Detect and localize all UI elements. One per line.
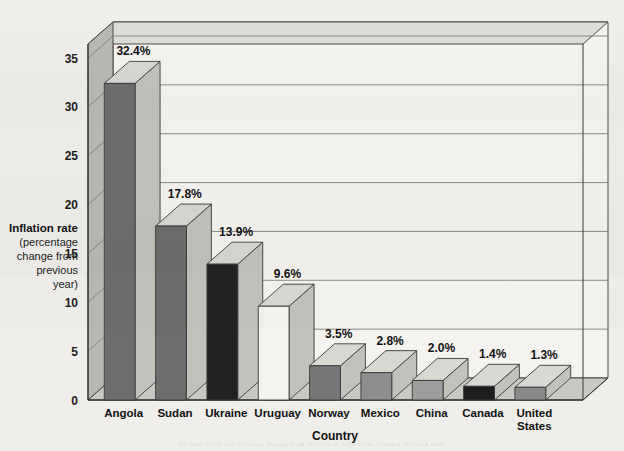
- bar-value-label-Sudan: 17.8%: [168, 187, 202, 201]
- bar-front-Mexico: [361, 373, 392, 400]
- y-tick-label-5: 5: [71, 345, 78, 359]
- bar-value-label-China: 2.0%: [428, 341, 456, 355]
- y-tick-label-10: 10: [65, 296, 79, 310]
- bar-front-Angola: [104, 83, 135, 400]
- y-axis-title-line-4: year): [53, 278, 78, 290]
- y-tick-label-25: 25: [65, 149, 79, 163]
- y-tick-label-35: 35: [65, 52, 79, 66]
- bar-front-Canada: [464, 386, 495, 400]
- bar-value-label-Canada: 1.4%: [479, 347, 507, 361]
- x-category-label-Angola: Angola: [104, 407, 144, 419]
- x-category-label-United States: United: [516, 407, 552, 419]
- bar-value-label-Uruguay: 9.6%: [274, 267, 302, 281]
- bar-front-Sudan: [156, 226, 187, 400]
- y-axis-title-line-1: (percentage: [19, 236, 78, 248]
- bar-front-China: [412, 380, 443, 400]
- x-category-label-Norway: Norway: [308, 407, 350, 419]
- x-category-label-Sudan: Sudan: [157, 407, 192, 419]
- bar-value-label-Ukraine: 13.9%: [219, 225, 253, 239]
- x-category-label-China: China: [416, 407, 449, 419]
- bar-value-label-Mexico: 2.8%: [376, 334, 404, 348]
- x-category-label-Canada: Canada: [462, 407, 504, 419]
- bar-front-Norway: [310, 366, 341, 400]
- y-tick-label-0: 0: [71, 394, 78, 408]
- plot-top-wall: [88, 22, 608, 44]
- y-axis-title-line-2: change from: [17, 250, 78, 262]
- x-category-label-United States: States: [517, 420, 552, 432]
- x-category-label-Ukraine: Ukraine: [205, 407, 247, 419]
- x-category-label-Uruguay: Uruguay: [254, 407, 301, 419]
- y-axis-title-line-0: Inflation rate: [9, 222, 78, 234]
- bar-front-United States: [515, 387, 546, 400]
- bar-value-label-United States: 1.3%: [530, 348, 558, 362]
- x-category-label-Mexico: Mexico: [361, 407, 400, 419]
- bar-value-label-Angola: 32.4%: [116, 44, 150, 58]
- page-bleed-text: the faint offset text bleeding through f…: [0, 441, 624, 451]
- y-axis-title-line-3: previous: [36, 264, 78, 276]
- inflation-rate-bar-chart: 0510152025303532.4%Angola17.8%Sudan13.9%…: [0, 0, 624, 451]
- bar-front-Ukraine: [207, 264, 238, 400]
- y-tick-label-20: 20: [65, 198, 79, 212]
- bar-front-Uruguay: [258, 306, 289, 400]
- y-tick-label-30: 30: [65, 100, 79, 114]
- bar-value-label-Norway: 3.5%: [325, 327, 353, 341]
